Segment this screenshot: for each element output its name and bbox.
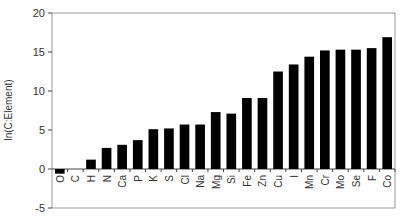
x-tick-label-zn: Zn — [257, 175, 268, 187]
bar-cr — [320, 50, 330, 169]
y-tick-label: 20 — [33, 7, 45, 19]
bar-h — [86, 160, 96, 169]
bar-zn — [258, 98, 268, 169]
bar-p — [133, 140, 143, 169]
x-tick-label-cr: Cr — [320, 174, 331, 185]
y-tick-label: -5 — [35, 202, 45, 214]
x-tick-label-i: I — [289, 175, 300, 178]
x-tick-label-co: Co — [382, 175, 393, 188]
y-tick-label: 0 — [39, 163, 45, 175]
x-tick-label-s: S — [164, 175, 175, 182]
bar-cl — [180, 125, 190, 169]
bar-o — [55, 169, 65, 174]
x-tick-label-ca: Ca — [117, 175, 128, 188]
x-tick-label-k: K — [148, 175, 159, 182]
bar-k — [149, 129, 159, 169]
x-tick-label-c: C — [70, 175, 81, 182]
x-tick-label-na: Na — [195, 175, 206, 188]
x-tick-label-p: P — [133, 175, 144, 182]
bar-mg — [211, 112, 221, 169]
bar-na — [195, 125, 205, 169]
x-tick-label-mo: Mo — [335, 175, 346, 189]
x-tick-label-o: O — [55, 175, 66, 183]
y-tick-label: 5 — [39, 124, 45, 136]
bar-mn — [304, 57, 314, 169]
x-tick-label-mn: Mn — [304, 175, 315, 189]
bar-n — [102, 148, 112, 169]
y-tick-label: 10 — [33, 85, 45, 97]
bar-s — [164, 128, 174, 169]
bar-co — [382, 37, 392, 169]
bar-i — [289, 64, 299, 169]
bar-f — [367, 48, 377, 169]
chart-canvas: -505101520OCHNCaPKSClNaMgSiFeZnCuIMnCrMo… — [0, 0, 409, 222]
bar-fe — [242, 98, 252, 169]
bar-se — [351, 50, 361, 169]
x-tick-label-fe: Fe — [242, 175, 253, 187]
bar-si — [226, 114, 236, 169]
x-tick-label-mg: Mg — [211, 175, 222, 189]
x-tick-label-se: Se — [351, 175, 362, 188]
bar-mo — [336, 50, 346, 169]
bar-ca — [117, 145, 127, 169]
x-tick-label-si: Si — [226, 175, 237, 184]
x-tick-label-n: N — [102, 175, 113, 182]
bar-chart: -505101520OCHNCaPKSClNaMgSiFeZnCuIMnCrMo… — [0, 0, 409, 222]
y-axis-label: ln(C:Element) — [3, 79, 14, 140]
y-tick-label: 15 — [33, 46, 45, 58]
x-tick-label-f: F — [367, 175, 378, 181]
x-tick-label-cu: Cu — [273, 175, 284, 188]
x-tick-label-cl: Cl — [180, 175, 191, 184]
bar-cu — [273, 72, 283, 170]
x-tick-label-h: H — [86, 175, 97, 182]
